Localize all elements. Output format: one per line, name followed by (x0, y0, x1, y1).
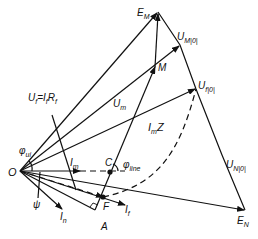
label-um0: UM|0| (177, 32, 198, 44)
label-em: EM (137, 8, 150, 20)
segment-em-en (158, 12, 245, 210)
segment-m-em (155, 14, 158, 67)
point-f (100, 194, 105, 199)
label-c: C (105, 158, 112, 168)
phasor-en (20, 171, 244, 210)
label-m: M (158, 63, 166, 73)
label-a: A (101, 222, 108, 232)
label-uf0: Uf|0| (198, 81, 215, 93)
label-imz: ImZ (148, 122, 164, 135)
label-im: Im (70, 158, 79, 170)
psi-leader (38, 172, 40, 198)
label-en: EN (237, 216, 249, 228)
label-psi: ψ (33, 200, 40, 210)
point-c (107, 169, 112, 174)
label-f: F (103, 202, 109, 212)
label-in: In (60, 212, 67, 224)
label-uf-eq-ifrf: Uf=IfRf (28, 93, 57, 105)
label-if: If (125, 205, 130, 217)
label-o: O (8, 167, 17, 178)
label-un0: UN|0| (226, 160, 246, 172)
label-phi-ui: φui (19, 146, 31, 158)
label-phi-line: φline (123, 160, 140, 172)
label-um: Um (113, 99, 126, 111)
